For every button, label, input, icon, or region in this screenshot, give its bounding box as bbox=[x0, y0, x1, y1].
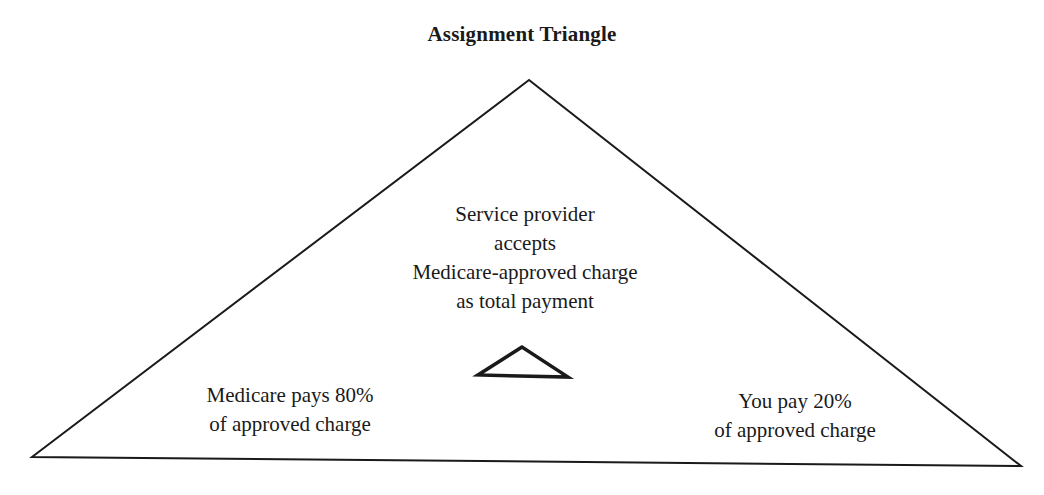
left-label-line: of approved charge bbox=[170, 410, 410, 439]
center-label-line: accepts bbox=[370, 229, 680, 258]
medicare-pays-label: Medicare pays 80% of approved charge bbox=[170, 381, 410, 439]
center-label-line: as total payment bbox=[370, 287, 680, 316]
center-label-line: Service provider bbox=[370, 200, 680, 229]
center-label-line: Medicare-approved charge bbox=[370, 258, 680, 287]
you-pay-label: You pay 20% of approved charge bbox=[675, 387, 915, 445]
right-label-line: You pay 20% bbox=[675, 387, 915, 416]
right-label-line: of approved charge bbox=[675, 416, 915, 445]
left-label-line: Medicare pays 80% bbox=[170, 381, 410, 410]
delta-triangle-icon bbox=[478, 347, 568, 377]
center-label: Service provider accepts Medicare-approv… bbox=[370, 200, 680, 316]
